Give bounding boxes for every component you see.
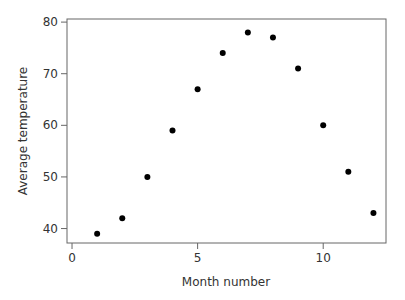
data-point [144, 174, 150, 180]
data-points [94, 29, 376, 236]
x-tick-label: 5 [194, 251, 202, 265]
data-point [94, 231, 100, 237]
data-point [370, 210, 376, 216]
y-tick-label: 50 [43, 170, 58, 184]
y-tick-label: 70 [43, 67, 58, 81]
x-tick-label: 0 [68, 251, 76, 265]
x-axis-ticks: 0510 [68, 243, 331, 265]
y-tick-label: 60 [43, 118, 58, 132]
data-point [270, 35, 276, 41]
data-point [195, 86, 201, 92]
scatter-chart: 4050607080 0510 Month number Average tem… [0, 0, 405, 300]
y-tick-label: 80 [43, 15, 58, 29]
data-point [295, 66, 301, 72]
data-point [245, 29, 251, 35]
plot-area [67, 19, 386, 243]
y-axis-label: Average temperature [16, 67, 30, 196]
data-point [169, 127, 175, 133]
y-axis-ticks: 4050607080 [43, 15, 67, 235]
data-point [345, 169, 351, 175]
data-point [220, 50, 226, 56]
x-tick-label: 10 [316, 251, 331, 265]
y-tick-label: 40 [43, 222, 58, 236]
x-axis-label: Month number [182, 275, 270, 289]
data-point [320, 122, 326, 128]
data-point [119, 215, 125, 221]
